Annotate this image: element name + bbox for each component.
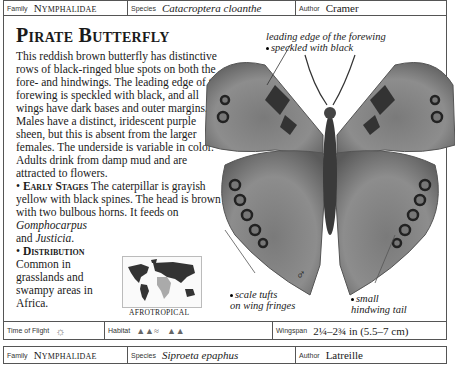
bullet: • (16, 245, 23, 257)
world-map-icon (123, 257, 201, 307)
habitat-label: Habitat (108, 327, 130, 334)
pointer-dot (230, 294, 233, 297)
author-cell: Author Latreille (296, 347, 446, 363)
pointer-dot (266, 47, 269, 50)
distribution-map (122, 256, 202, 308)
annotation-line: on wing fringes (230, 300, 295, 311)
wingspan-label: Wingspan (276, 327, 307, 334)
next-entry-header: Family Nymphalidae Species Siproeta epap… (3, 346, 447, 364)
time-of-flight-label: Time of Flight (7, 327, 49, 334)
species-cell: Species Siproeta epaphus (128, 347, 296, 363)
annotation-line: speckled with black (271, 42, 353, 53)
description: This reddish brown butterfly has distinc… (16, 50, 228, 180)
species-value: Siproeta epaphus (162, 349, 238, 361)
pointer-dot (351, 298, 354, 301)
annotation-line: hindwing tail (351, 304, 407, 315)
grassland-icon: ▲▲ (167, 326, 185, 336)
wingspan-cell: Wingspan 2¼–2¾ in (5.5–7 cm) (273, 322, 446, 339)
wingspan-value: 2¼–2¾ in (5.5–7 cm) (313, 325, 408, 337)
distribution-text: Common in grasslands and swampy areas in… (16, 258, 121, 310)
annotation-scale-tufts: scale tufts on wing fringes (230, 289, 295, 311)
species-cell: Species Catacroptera cloanthe (128, 1, 296, 15)
map-label: Afrotropical (129, 308, 189, 317)
habitat-cell: Habitat ▲▲≈ ▲▲ (105, 322, 273, 339)
entry-header: Family Nymphalidae Species Catacroptera … (3, 0, 447, 16)
bullet: • (16, 180, 23, 192)
author-value: Cramer (326, 2, 359, 14)
sun-icon: ☼ (55, 325, 65, 337)
author-value: Latreille (326, 349, 363, 361)
time-of-flight-cell: Time of Flight ☼ (4, 322, 105, 339)
species-label: Species (131, 352, 156, 359)
family-label: Family (7, 5, 28, 12)
family-cell: Family Nymphalidae (4, 1, 128, 15)
annotation-leading-edge: leading edge of the forewing speckled wi… (266, 31, 386, 53)
food-plant-1: Gomphocarpus (16, 219, 87, 231)
food-plant-2: Justicia (35, 232, 71, 244)
species-label: Species (131, 5, 156, 12)
author-cell: Author Cramer (296, 1, 446, 15)
family-value: Nymphalidae (34, 349, 97, 361)
annotation-hindwing-tail: small hindwing tail (351, 293, 407, 315)
family-cell: Family Nymphalidae (4, 347, 128, 363)
family-label: Family (7, 352, 28, 359)
author-label: Author (299, 5, 320, 12)
butterfly-illustration (205, 45, 455, 305)
annotation-line: small (356, 293, 379, 304)
food-and: and (16, 232, 33, 244)
species-value: Catacroptera cloanthe (162, 2, 262, 14)
annotation-line: scale tufts (235, 289, 277, 300)
distribution-heading: Distribution (23, 245, 85, 257)
entry-footer: Time of Flight ☼ Habitat ▲▲≈ ▲▲ Wingspan… (3, 321, 447, 340)
male-symbol-icon: ♂ (296, 267, 306, 283)
early-stages-heading: Early Stages (23, 180, 88, 192)
family-value: Nymphalidae (34, 2, 97, 14)
annotation-line: leading edge of the forewing (266, 31, 386, 42)
page-title: Pirate Butterfly (16, 24, 170, 47)
author-label: Author (299, 352, 320, 359)
wetland-icon: ▲▲≈ (136, 326, 159, 336)
